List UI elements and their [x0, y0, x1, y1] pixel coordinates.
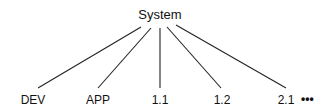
child-node-1-2: 1.2 — [214, 93, 231, 107]
child-node-app: APP — [86, 93, 110, 107]
child-node-1-1: 1.1 — [152, 93, 169, 107]
child-node-2-1: 2.1 — [278, 93, 295, 107]
ellipsis-more-icon: ••• — [301, 92, 314, 106]
child-node-dev: DEV — [21, 93, 46, 107]
edge-system-1-2 — [167, 27, 221, 88]
root-node-label: System — [138, 7, 181, 22]
